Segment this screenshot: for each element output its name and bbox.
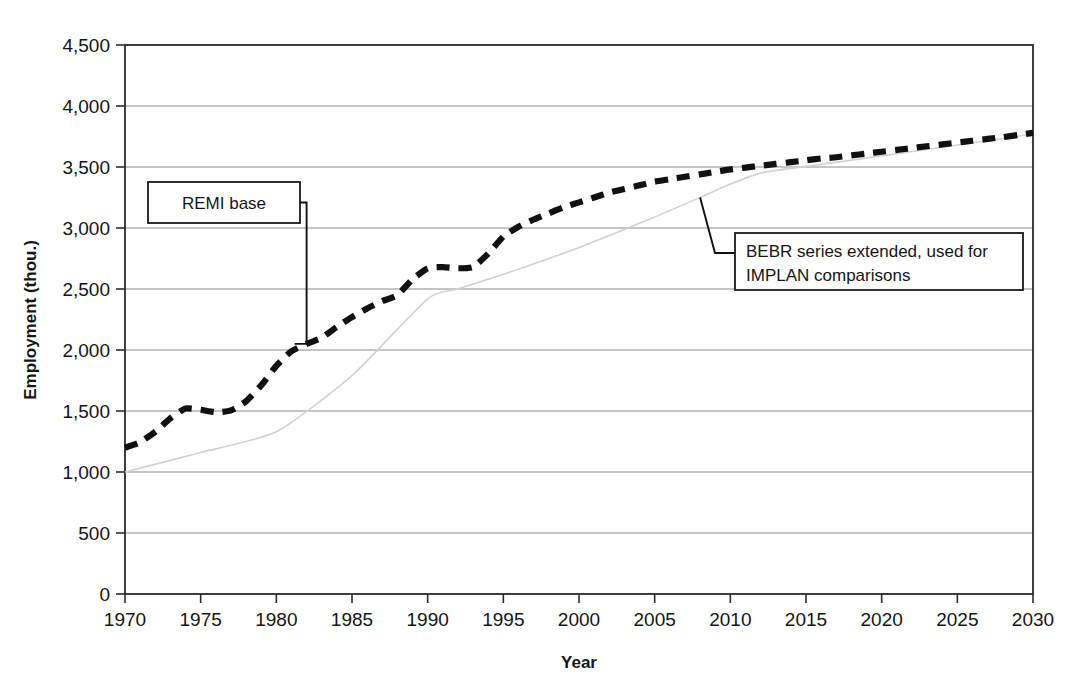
y-tick-label: 1,000	[62, 462, 110, 483]
x-tick-label: 2020	[861, 609, 903, 630]
y-tick-label: 1,500	[62, 401, 110, 422]
x-tick-label: 2015	[785, 609, 827, 630]
y-tick-label: 3,500	[62, 157, 110, 178]
x-tick-label: 1990	[407, 609, 449, 630]
chart-background	[0, 0, 1071, 691]
x-tick-label: 2010	[709, 609, 751, 630]
x-tick-label: 1970	[104, 609, 146, 630]
y-tick-label: 4,500	[62, 35, 110, 56]
bebr-extended-callout-line-1: BEBR series extended, used for	[746, 242, 988, 261]
remi-base-callout-label: REMI base	[182, 194, 266, 213]
y-tick-label: 4,000	[62, 96, 110, 117]
x-tick-label: 1980	[255, 609, 297, 630]
x-tick-label: 1995	[482, 609, 524, 630]
x-tick-label: 2025	[936, 609, 978, 630]
y-tick-label: 2,000	[62, 340, 110, 361]
bebr-extended-callout-line-2: IMPLAN comparisons	[746, 266, 910, 285]
x-tick-label: 1985	[331, 609, 373, 630]
x-axis-title: Year	[561, 653, 597, 672]
x-tick-label: 1975	[180, 609, 222, 630]
chart-canvas: 05001,0001,5002,0002,5003,0003,5004,0004…	[0, 0, 1071, 691]
x-tick-label: 2005	[634, 609, 676, 630]
y-tick-label: 2,500	[62, 279, 110, 300]
employment-projection-chart: 05001,0001,5002,0002,5003,0003,5004,0004…	[0, 0, 1071, 691]
y-tick-label: 500	[78, 523, 110, 544]
y-tick-label: 0	[99, 584, 110, 605]
y-tick-label: 3,000	[62, 218, 110, 239]
x-tick-label: 2000	[558, 609, 600, 630]
y-axis-title: Employment (thou.)	[21, 240, 40, 400]
x-tick-label: 2030	[1012, 609, 1054, 630]
